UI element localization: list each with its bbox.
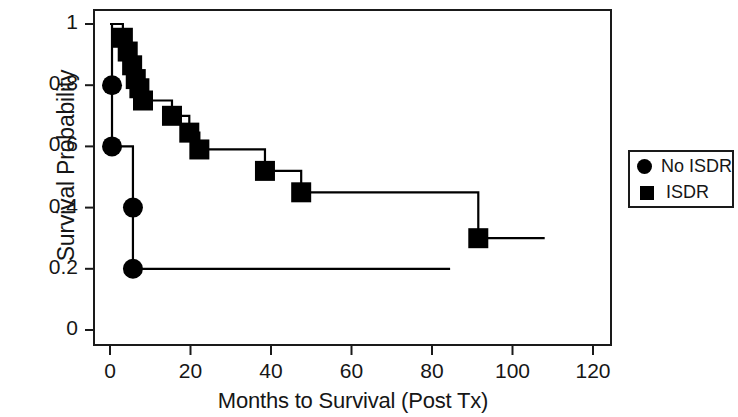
survival-plot-figure: Survival Probability Months to Survival … [0, 0, 738, 417]
data-point-square [255, 161, 275, 181]
y-tick-label: 1 [0, 10, 78, 34]
x-tick-label: 60 [312, 359, 392, 383]
data-point-square [133, 91, 153, 111]
legend-entry-no-isdr: No ISDR [630, 154, 732, 179]
x-tick-label: 120 [553, 359, 633, 383]
x-tick-label: 40 [231, 359, 311, 383]
square-marker-icon [634, 186, 660, 200]
data-point-circle [102, 136, 122, 156]
data-point-circle [123, 259, 143, 279]
y-tick-label: 0.8 [0, 71, 78, 95]
legend-entry-isdr: ISDR [630, 180, 732, 205]
axis-tick-marks [85, 24, 593, 355]
legend-label-no-isdr: No ISDR [661, 156, 732, 177]
y-tick-label: 0.6 [0, 132, 78, 156]
series-step-line-isdr [110, 24, 545, 238]
x-tick-label: 20 [151, 359, 231, 383]
y-tick-label: 0 [0, 316, 78, 340]
data-point-square [468, 228, 488, 248]
data-point-square [189, 139, 209, 159]
data-point-circle [102, 75, 122, 95]
y-tick-label: 0.2 [0, 255, 78, 279]
y-tick-label: 0.4 [0, 194, 78, 218]
plot-canvas [0, 0, 738, 417]
x-tick-label: 80 [392, 359, 472, 383]
axis-frame [94, 10, 611, 345]
data-point-square [162, 106, 182, 126]
circle-marker-icon [634, 159, 655, 174]
legend: No ISDR ISDR [628, 150, 734, 208]
x-tick-label: 0 [70, 359, 150, 383]
data-point-circle [123, 198, 143, 218]
series-step-line-no-isdr [110, 24, 450, 269]
series-layer [102, 24, 545, 279]
x-tick-label: 100 [473, 359, 553, 383]
legend-label-isdr: ISDR [666, 182, 709, 203]
data-point-square [291, 182, 311, 202]
x-axis-title: Months to Survival (Post Tx) [94, 388, 612, 414]
